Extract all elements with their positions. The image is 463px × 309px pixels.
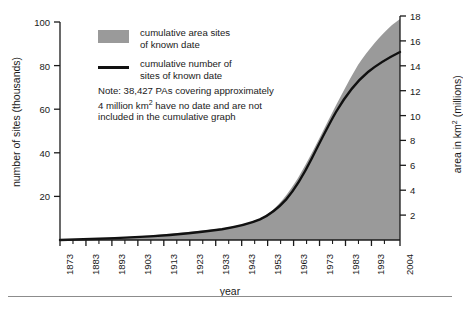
ytick-right-8: 8 (410, 135, 434, 146)
xtick-1993: 1993 (375, 254, 386, 275)
left-axis-ticks (54, 22, 60, 196)
legend-swatch-area-icon (98, 30, 129, 43)
xtick-1973: 1973 (324, 254, 335, 275)
xtick-1933: 1933 (220, 254, 231, 275)
ytick-right-4: 4 (410, 185, 434, 196)
ytick-right-10: 10 (410, 111, 434, 122)
legend-label-line: cumulative number of sites of known date (140, 58, 232, 81)
legend-item-line: cumulative number of sites of known date (98, 58, 308, 80)
legend-label-line-line1: cumulative number of (140, 58, 232, 70)
y-axis-left-title: number of sites (thousands) (10, 47, 22, 197)
legend-swatch-line-icon (98, 66, 129, 69)
ytick-right-2: 2 (410, 210, 434, 221)
xtick-1983: 1983 (350, 254, 361, 275)
chart-note-line3: included in the cumulative graph (98, 111, 328, 123)
ytick-right-14: 14 (410, 61, 434, 72)
chart-note: Note: 38,427 PAs covering approximately … (98, 85, 328, 123)
chart-note-line2: 4 million km2 have no date and are not (98, 97, 328, 112)
xtick-1953: 1953 (272, 254, 283, 275)
ytick-left-100: 100 (24, 17, 50, 28)
xtick-1963: 1963 (298, 254, 309, 275)
chart-legend: cumulative area sites of known date cumu… (98, 27, 308, 85)
chart-note-line2-post: have no date and are not (153, 100, 262, 111)
xtick-1943: 1943 (246, 254, 257, 275)
ytick-left-20: 20 (24, 191, 50, 202)
xtick-1913: 1913 (168, 254, 179, 275)
y-axis-right-title-superscript: 2 (451, 120, 458, 124)
xtick-1923: 1923 (194, 254, 205, 275)
ytick-left-80: 80 (24, 61, 50, 72)
ytick-right-18: 18 (410, 11, 434, 22)
ytick-right-16: 16 (410, 36, 434, 47)
xtick-1883: 1883 (90, 254, 101, 275)
ytick-left-60: 60 (24, 104, 50, 115)
legend-label-area: cumulative area sites of known date (140, 27, 230, 50)
legend-label-area-line1: cumulative area sites (140, 27, 230, 39)
xtick-1903: 1903 (142, 254, 153, 275)
y-axis-right-title-pre: area in km (451, 124, 463, 173)
xtick-2004: 2004 (404, 254, 415, 275)
ytick-right-6: 6 (410, 160, 434, 171)
chart-note-line2-pre: 4 million km (98, 100, 149, 111)
x-axis-major-ticks (60, 240, 400, 246)
xtick-1873: 1873 (64, 254, 75, 275)
bottom-divider-rule (8, 296, 452, 297)
legend-label-line-line2: sites of known date (140, 70, 232, 82)
y-axis-right-title: area in km2 (millions) (451, 49, 463, 199)
chart-note-line1: Note: 38,427 PAs covering approximately (98, 85, 328, 97)
y-axis-right-title-post: (millions) (451, 75, 463, 120)
xtick-1893: 1893 (116, 254, 127, 275)
ytick-left-40: 40 (24, 148, 50, 159)
legend-item-area: cumulative area sites of known date (98, 27, 308, 49)
legend-label-area-line2: of known date (140, 39, 230, 51)
right-axis-ticks (400, 16, 406, 215)
ytick-right-12: 12 (410, 86, 434, 97)
